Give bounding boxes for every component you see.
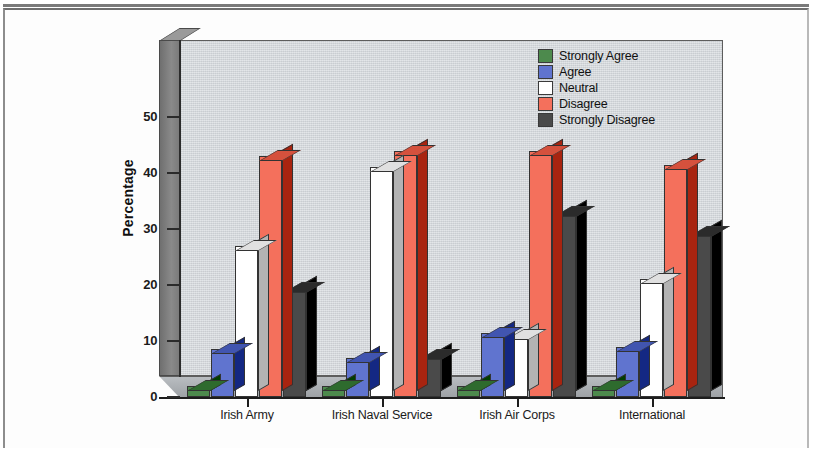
y-axis-line	[179, 40, 181, 377]
legend-label: Strongly Agree	[559, 49, 638, 63]
legend-label: Strongly Disagree	[559, 113, 655, 127]
legend-item: Agree	[538, 64, 713, 79]
scanned-page-frame: 01020304050 Percentage Irish ArmyIrish N…	[3, 8, 809, 448]
bar-front	[616, 347, 639, 397]
y-axis-tick	[167, 396, 180, 398]
bar-side	[393, 155, 404, 391]
x-axis-tick-label: International	[572, 408, 732, 422]
legend-label: Agree	[559, 65, 591, 79]
legend-item: Strongly Agree	[538, 48, 713, 63]
y-axis-tick	[167, 116, 180, 118]
bar-side	[282, 144, 293, 391]
bar-front	[211, 349, 234, 397]
legend-swatch-icon	[538, 49, 553, 63]
bar-side	[417, 138, 428, 391]
legend-item: Disagree	[538, 96, 713, 111]
y-axis-tick-label: 50	[123, 109, 157, 124]
bar-agree	[211, 349, 234, 397]
y-axis-tick-label: 20	[123, 277, 157, 292]
bar-strongly-agree	[457, 386, 480, 397]
legend-swatch-icon	[538, 113, 553, 127]
x-axis-tick	[382, 399, 384, 407]
legend-swatch-icon	[538, 81, 553, 95]
legend-swatch-icon	[538, 97, 553, 111]
x-axis-tick	[517, 399, 519, 407]
bar-side	[258, 233, 269, 391]
x-axis-line	[159, 397, 725, 399]
legend-swatch-icon	[538, 65, 553, 79]
bar-side	[306, 275, 317, 391]
bar-side	[687, 152, 698, 391]
x-axis-tick	[247, 399, 249, 407]
legend-item: Strongly Disagree	[538, 112, 713, 127]
y-axis-title: Percentage	[120, 159, 136, 236]
bar-chart: 01020304050 Percentage Irish ArmyIrish N…	[123, 40, 723, 405]
bar-side	[576, 200, 587, 391]
legend-label: Neutral	[559, 81, 598, 95]
y-axis-tick	[167, 284, 180, 286]
y-axis-tick	[167, 228, 180, 230]
bar-side	[552, 138, 563, 391]
bar-strongly-agree	[322, 386, 345, 397]
chart-legend: Strongly AgreeAgreeNeutralDisagreeStrong…	[538, 48, 713, 128]
y-axis-tick-label: 0	[123, 389, 157, 404]
y-axis-tick	[167, 172, 180, 174]
legend-label: Disagree	[559, 97, 607, 111]
bar-side	[711, 219, 722, 391]
x-axis-tick	[652, 399, 654, 407]
bar-agree	[616, 347, 639, 397]
legend-item: Neutral	[538, 80, 713, 95]
bar-strongly-agree	[592, 386, 615, 397]
bar-strongly-agree	[187, 386, 210, 397]
y-axis-tick	[167, 340, 180, 342]
bar-side	[663, 267, 674, 391]
y-axis-tick-label: 10	[123, 333, 157, 348]
